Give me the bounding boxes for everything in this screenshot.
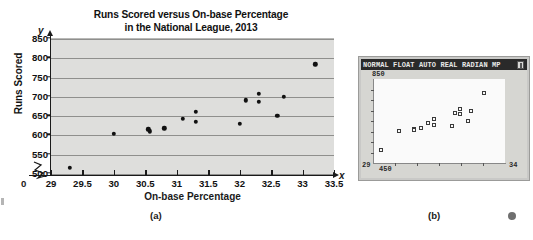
figure-caption-b: (b): [428, 210, 440, 221]
calculator-x-tick: [483, 163, 484, 166]
y-axis-tick-mark: [47, 57, 51, 58]
x-axis-tick-mark: [334, 170, 335, 175]
chart-title: Runs Scored versus On-base Percentage in…: [46, 9, 336, 34]
x-axis-tick-mark: [114, 170, 115, 175]
calculator-data-point: [432, 117, 436, 121]
calculator-data-point: [458, 112, 462, 116]
x-axis-tick-mark: [271, 170, 272, 175]
x-axis-tick-mark: [303, 170, 304, 175]
scatter-plot-figure: Runs Scored versus On-base Percentage in…: [0, 0, 352, 240]
calculator-data-point: [453, 111, 457, 115]
y-axis-tick-mark: [47, 37, 51, 38]
gridline: [51, 155, 334, 156]
plot-area: [51, 38, 334, 174]
gridline: [51, 135, 334, 136]
calculator-data-point: [426, 121, 430, 125]
y-axis-tick-label: 750: [22, 71, 48, 82]
page-margin-mark: [1, 198, 4, 205]
y-axis-tick-mark: [47, 134, 51, 135]
gridline: [51, 97, 334, 98]
y-axis-tick-label: 800: [22, 52, 48, 63]
calculator-xmax-label: 34: [509, 161, 517, 169]
x-axis-origin-label: 0: [21, 178, 26, 189]
calculator-y-tick: [371, 132, 374, 133]
y-axis-tick-mark: [47, 76, 51, 77]
gridline: [51, 78, 334, 79]
calculator-x-tick: [461, 163, 462, 166]
calculator-screenshot: NORMAL FLOAT AUTO REAL RADIAN MP 850 450…: [358, 56, 530, 181]
y-axis-tick-label: 650: [22, 110, 48, 121]
calculator-y-tick: [371, 142, 374, 143]
x-axis-line: [29, 175, 335, 176]
calculator-y-tick: [371, 111, 374, 112]
page-corner-dot: [508, 212, 516, 220]
x-axis-tick-mark: [145, 170, 146, 175]
calculator-data-point: [466, 119, 470, 123]
calculator-bezel: NORMAL FLOAT AUTO REAL RADIAN MP 850 450…: [358, 56, 530, 181]
calculator-y-tick: [371, 90, 374, 91]
calculator-mode-text: NORMAL FLOAT AUTO REAL RADIAN MP: [363, 61, 501, 69]
calculator-data-point: [379, 148, 383, 152]
chart-title-line-2: in the National League, 2013: [46, 22, 336, 35]
gridline: [51, 116, 334, 117]
y-axis-tick-label: 850: [22, 33, 48, 44]
calculator-x-tick: [439, 163, 440, 166]
x-axis-tick-label: 33.5: [314, 178, 354, 189]
calculator-graph-screen: 850 450 29 34: [361, 70, 527, 178]
calculator-data-point: [412, 128, 416, 132]
y-axis-tick-mark: [47, 153, 51, 154]
calculator-data-point: [450, 124, 454, 128]
y-axis-tick-label: 600: [22, 129, 48, 140]
calculator-data-point: [469, 109, 473, 113]
gridline: [51, 58, 334, 59]
x-axis-tick-mark: [240, 170, 241, 175]
axis-break-icon: [32, 160, 62, 180]
y-axis-tick-label: 700: [22, 90, 48, 101]
x-axis-tick-mark: [82, 170, 83, 175]
x-axis-tick-mark: [177, 170, 178, 175]
calculator-ymin-label: 450: [379, 165, 392, 173]
x-axis-tick-mark: [51, 170, 52, 175]
calculator-y-tick: [371, 100, 374, 101]
chart-title-line-1: Runs Scored versus On-base Percentage: [46, 9, 336, 22]
calculator-y-tick: [371, 153, 374, 154]
calculator-data-point: [432, 123, 436, 127]
gridline: [51, 39, 334, 40]
y-axis-tick-mark: [47, 95, 51, 96]
calculator-xmin-label: 29: [362, 161, 370, 169]
y-axis-tick-label: 550: [22, 148, 48, 159]
calculator-ymax-label: 850: [372, 70, 385, 78]
figure-caption-a: (a): [150, 210, 162, 221]
calculator-data-point: [419, 126, 423, 130]
calculator-data-point: [482, 91, 486, 95]
calculator-status-bar: NORMAL FLOAT AUTO REAL RADIAN MP: [361, 59, 527, 70]
battery-icon: [517, 61, 524, 69]
calculator-y-tick: [371, 121, 374, 122]
calculator-x-tick: [395, 163, 396, 166]
y-axis-tick-mark: [47, 114, 51, 115]
calculator-data-point: [397, 129, 401, 133]
calculator-x-tick: [417, 163, 418, 166]
y-axis-title: Runs Scored: [13, 34, 24, 134]
x-axis-title: On-base Percentage: [51, 191, 334, 202]
x-axis-tick-mark: [208, 170, 209, 175]
calculator-data-point: [458, 107, 462, 111]
